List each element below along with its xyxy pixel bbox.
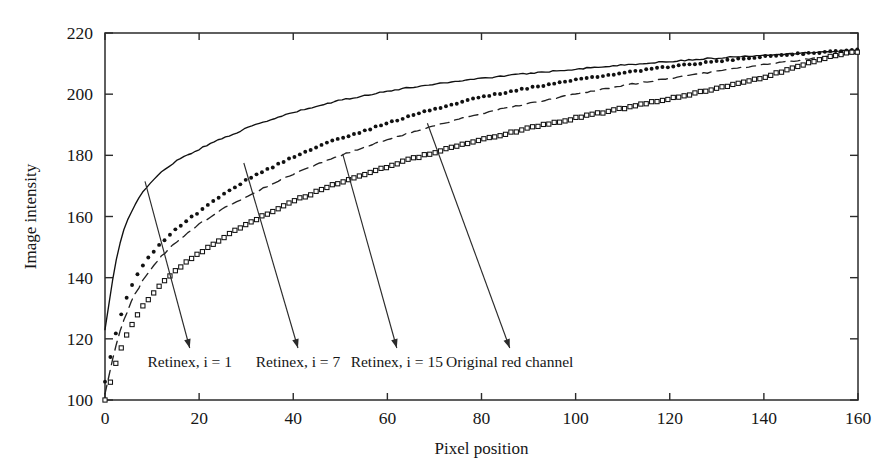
data-point-marker — [401, 159, 405, 163]
data-point-marker — [460, 100, 464, 104]
data-point-marker — [466, 98, 470, 102]
data-point-marker — [725, 58, 729, 62]
data-point-marker — [114, 361, 118, 365]
data-point-marker — [661, 65, 665, 69]
data-point-marker — [590, 112, 594, 116]
data-point-marker — [736, 81, 740, 85]
data-point-marker — [184, 260, 188, 264]
data-point-marker — [704, 89, 708, 93]
data-point-marker — [108, 355, 112, 359]
data-point-marker — [433, 107, 437, 111]
data-point-marker — [812, 51, 816, 55]
data-point-marker — [163, 238, 167, 242]
data-point-marker — [785, 68, 789, 72]
data-point-marker — [569, 79, 573, 83]
data-point-marker — [671, 95, 675, 99]
data-point-marker — [579, 77, 583, 81]
data-point-marker — [309, 148, 313, 152]
data-point-marker — [282, 160, 286, 164]
data-point-marker — [753, 56, 757, 60]
data-point-marker — [482, 94, 486, 98]
data-point-marker — [612, 73, 616, 77]
data-point-marker — [379, 166, 383, 170]
annotation-label: Original red channel — [446, 353, 573, 370]
data-point-marker — [363, 172, 367, 176]
data-point-marker — [395, 119, 399, 123]
data-point-marker — [585, 76, 589, 80]
data-point-marker — [682, 94, 686, 98]
data-point-marker — [693, 91, 697, 95]
data-point-marker — [520, 128, 524, 132]
data-point-marker — [130, 283, 134, 287]
x-tick-label: 20 — [190, 408, 208, 428]
data-point-marker — [595, 111, 599, 115]
data-point-marker — [742, 57, 746, 61]
data-point-marker — [677, 95, 681, 99]
data-point-marker — [130, 322, 134, 326]
data-point-marker — [514, 89, 518, 93]
data-point-marker — [817, 58, 821, 62]
data-point-marker — [720, 59, 724, 63]
data-point-marker — [303, 195, 307, 199]
data-point-marker — [249, 176, 253, 180]
data-point-marker — [834, 54, 838, 58]
data-point-marker — [406, 157, 410, 161]
data-point-marker — [325, 185, 329, 189]
data-point-marker — [493, 135, 497, 139]
data-point-marker — [265, 212, 269, 216]
data-point-marker — [195, 252, 199, 256]
x-tick-label: 140 — [751, 408, 778, 428]
data-point-marker — [536, 124, 540, 128]
data-point-marker — [173, 227, 177, 231]
data-point-marker — [574, 115, 578, 119]
data-point-marker — [812, 60, 816, 64]
data-point-marker — [655, 66, 659, 70]
data-point-marker — [428, 152, 432, 156]
data-point-marker — [222, 192, 226, 196]
data-point-marker — [563, 119, 567, 123]
data-point-marker — [449, 103, 453, 107]
x-tick-label: 80 — [473, 408, 491, 428]
data-point-marker — [152, 291, 156, 295]
data-point-marker — [720, 85, 724, 89]
x-tick-label: 40 — [285, 408, 303, 428]
data-point-marker — [763, 54, 767, 58]
x-axis-title: Pixel position — [435, 439, 529, 458]
data-point-marker — [254, 218, 258, 222]
data-point-marker — [168, 233, 172, 237]
data-point-marker — [790, 53, 794, 57]
data-point-marker — [330, 139, 334, 143]
data-point-marker — [357, 131, 361, 135]
data-point-marker — [828, 49, 832, 53]
data-point-marker — [330, 183, 334, 187]
data-point-marker — [179, 224, 183, 228]
chart-background — [0, 0, 887, 468]
data-point-marker — [341, 180, 345, 184]
y-tick-label: 120 — [67, 329, 94, 349]
data-point-marker — [444, 147, 448, 151]
data-point-marker — [146, 256, 150, 260]
data-point-marker — [552, 120, 556, 124]
data-point-marker — [422, 109, 426, 113]
data-point-marker — [476, 96, 480, 100]
data-point-marker — [265, 167, 269, 171]
data-point-marker — [352, 176, 356, 180]
data-point-marker — [650, 67, 654, 71]
data-point-marker — [628, 70, 632, 74]
data-point-marker — [622, 107, 626, 111]
data-point-marker — [190, 215, 194, 219]
data-point-marker — [406, 114, 410, 118]
data-point-marker — [314, 189, 318, 193]
data-point-marker — [417, 111, 421, 115]
data-point-marker — [752, 77, 756, 81]
data-point-marker — [823, 50, 827, 54]
data-point-marker — [682, 63, 686, 67]
data-point-marker — [271, 209, 275, 213]
y-tick-label: 160 — [67, 207, 94, 227]
data-point-marker — [238, 182, 242, 186]
data-point-marker — [509, 89, 513, 93]
data-point-marker — [774, 54, 778, 58]
data-point-marker — [731, 82, 735, 86]
data-point-marker — [666, 65, 670, 69]
data-point-marker — [244, 178, 248, 182]
